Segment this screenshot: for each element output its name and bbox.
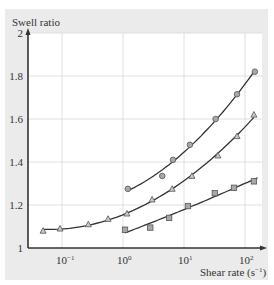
y-tick-labels: 11.21.41.61.82 (9, 27, 23, 254)
y-axis-arrow-icon (26, 28, 31, 35)
x-tick-labels: 10−1100101102 (56, 254, 254, 266)
x-tick-label: 102 (239, 254, 254, 266)
y-axis-title: Swell ratio (12, 16, 60, 28)
plot-area (28, 33, 262, 248)
circle-marker-icon (252, 69, 258, 75)
y-tick-label: 1.8 (9, 70, 23, 82)
x-tick-label: 100 (117, 254, 132, 266)
circle-marker-icon (170, 157, 176, 163)
x-tick-label: 101 (178, 254, 193, 266)
square-marker-icon (251, 179, 256, 184)
square-marker-icon (166, 215, 171, 220)
x-axis-arrow-icon (260, 246, 267, 251)
swell-ratio-chart: 11.21.41.61.82 10−1100101102 Swell ratio… (0, 0, 274, 285)
circle-marker-icon (213, 116, 219, 122)
square-marker-icon (212, 190, 217, 195)
x-axis-title: Shear rate (s−1) (200, 266, 266, 279)
y-tick-label: 1.4 (9, 156, 23, 168)
y-tick-label: 1 (18, 242, 24, 254)
circle-marker-icon (125, 186, 131, 192)
square-marker-icon (148, 225, 153, 230)
circle-marker-icon (187, 142, 193, 148)
circle-marker-icon (234, 91, 240, 97)
circle-marker-icon (159, 173, 165, 179)
square-marker-icon (185, 203, 190, 208)
x-tick-label: 10−1 (56, 254, 75, 266)
square-marker-icon (231, 185, 236, 190)
y-tick-label: 1.2 (9, 199, 23, 211)
square-marker-icon (122, 227, 127, 232)
y-tick-label: 2 (18, 27, 24, 39)
y-tick-label: 1.6 (9, 113, 23, 125)
